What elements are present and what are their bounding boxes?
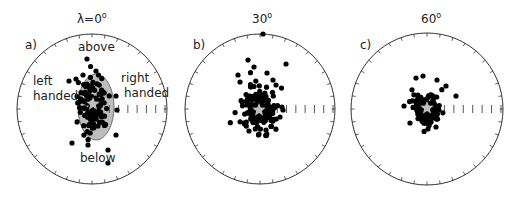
degree-symbol: o bbox=[267, 11, 272, 20]
panel-c-title: 60o bbox=[421, 10, 441, 25]
panel-c bbox=[351, 33, 503, 185]
panel-a-title-text: λ=0 bbox=[77, 12, 102, 26]
data-points bbox=[401, 73, 458, 134]
label-left-handed-2: handed bbox=[33, 90, 78, 102]
panel-a-letter: a) bbox=[25, 39, 37, 51]
panel-b-title-text: 30 bbox=[252, 12, 267, 26]
panel-a-title: λ=0o bbox=[77, 10, 107, 25]
label-right-handed-1: right bbox=[121, 72, 149, 84]
radial-scale-ticks bbox=[277, 105, 333, 113]
panel-b-letter: b) bbox=[193, 39, 205, 51]
data-points bbox=[228, 31, 289, 138]
label-above: above bbox=[78, 41, 115, 53]
label-left-handed-1: left bbox=[33, 75, 52, 87]
label-right-handed-2: handed bbox=[124, 87, 169, 99]
panel-b-title: 30o bbox=[252, 10, 272, 25]
figure-stage: λ=0o a) above below left handed right ha… bbox=[0, 0, 521, 198]
degree-symbol: o bbox=[102, 11, 107, 20]
degree-symbol: o bbox=[436, 11, 441, 20]
panel-c-title-text: 60 bbox=[421, 12, 436, 26]
radial-scale-ticks bbox=[444, 105, 501, 113]
panel-b bbox=[185, 31, 335, 184]
label-below: below bbox=[80, 152, 116, 164]
panel-c-letter: c) bbox=[360, 39, 371, 51]
